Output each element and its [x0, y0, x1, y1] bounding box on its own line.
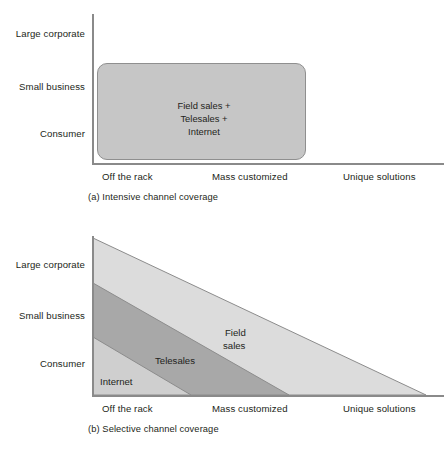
panel-a-x-label-off-the-rack: Off the rack — [102, 171, 153, 182]
panel-b-x-label-off-the-rack: Off the rack — [102, 403, 153, 414]
panel-b-band-label-field-sales-line-1: Field — [225, 327, 246, 340]
panel-b-x-label-mass-customized: Mass customized — [212, 403, 288, 414]
panel-a-y-label-consumer: Consumer — [0, 128, 85, 139]
panel-a-y-label-small-business: Small business — [0, 81, 85, 92]
panel-a-y-axis — [92, 14, 94, 164]
panel-b-y-label-consumer: Consumer — [0, 358, 85, 369]
panel-a-x-axis — [92, 163, 444, 165]
panel-b-y-label-small-business: Small business — [0, 310, 85, 321]
panel-b-band-label-telesales: Telesales — [155, 355, 195, 367]
panel-a-x-label-unique-solutions: Unique solutions — [343, 171, 416, 182]
panel-a-region-text-line-2: Telesales + — [146, 112, 262, 125]
panel-b-y-label-large-corporate: Large corporate — [0, 259, 85, 270]
panel-b-band-chart — [92, 232, 432, 398]
panel-a-caption: (a) Intensive channel coverage — [88, 192, 218, 202]
panel-b-caption: (b) Selective channel coverage — [88, 424, 219, 434]
panel-a-region-text-line-3: Internet — [146, 125, 262, 138]
figure-channel-coverage: Large corporate Small business Consumer … — [0, 0, 444, 449]
panel-b-band-label-field-sales-line-2: sales — [223, 340, 245, 353]
panel-b-x-label-unique-solutions: Unique solutions — [343, 403, 416, 414]
panel-a-x-label-mass-customized: Mass customized — [212, 171, 288, 182]
panel-a-y-label-large-corporate: Large corporate — [0, 28, 85, 39]
panel-b-y-axis — [92, 236, 94, 396]
panel-b-x-axis — [92, 395, 444, 397]
panel-b-band-label-internet: Internet — [100, 376, 133, 388]
panel-a-region-text-line-1: Field sales + — [146, 99, 262, 112]
